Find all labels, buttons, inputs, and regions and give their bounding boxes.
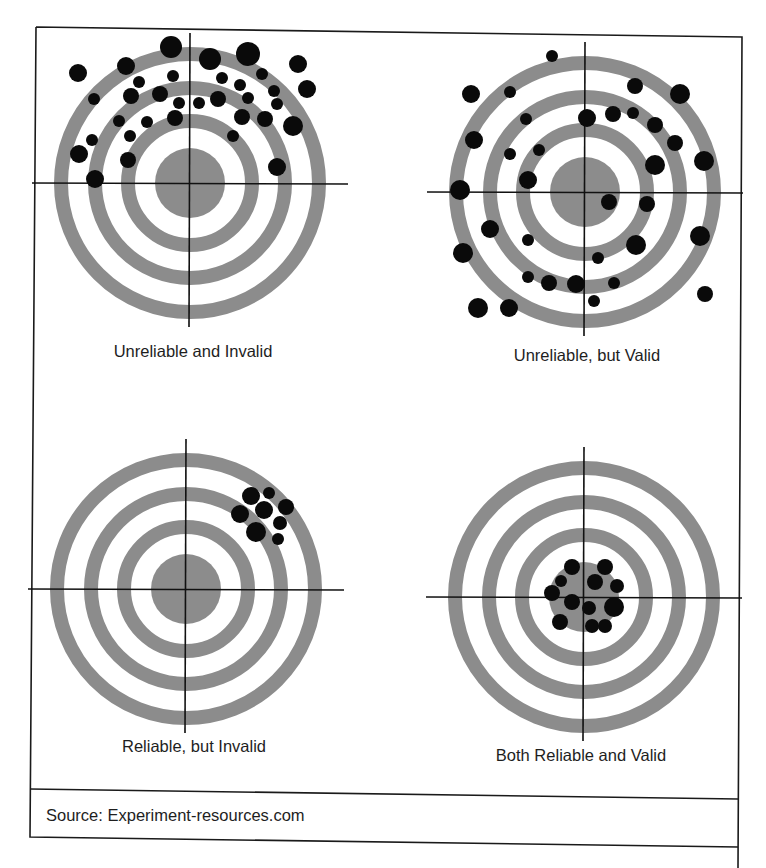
shot-dot bbox=[504, 86, 516, 98]
crosshair-vertical bbox=[189, 33, 190, 327]
shot-dot bbox=[520, 113, 532, 125]
shot-dot bbox=[522, 234, 534, 246]
shot-dot bbox=[587, 574, 603, 590]
shot-dot bbox=[597, 559, 613, 575]
shot-dot bbox=[697, 286, 713, 302]
shot-dot bbox=[242, 92, 254, 104]
shot-dot bbox=[567, 275, 585, 293]
shot-dot bbox=[552, 614, 568, 630]
target-reliable-valid bbox=[426, 447, 742, 741]
shot-dot bbox=[582, 601, 596, 615]
shot-dot bbox=[564, 559, 580, 575]
target-label-unreliable-invalid: Unreliable and Invalid bbox=[114, 342, 273, 360]
shot-dot bbox=[647, 117, 663, 133]
shot-dot bbox=[519, 171, 537, 189]
shot-dot bbox=[283, 116, 303, 136]
shot-dot bbox=[645, 155, 665, 175]
shot-dot bbox=[670, 84, 690, 104]
shot-dot bbox=[605, 106, 621, 122]
shot-dot bbox=[216, 72, 228, 84]
shot-dot bbox=[193, 97, 205, 109]
shot-dot bbox=[541, 275, 557, 291]
shot-dot bbox=[289, 55, 307, 73]
shot-dot bbox=[450, 180, 470, 200]
shot-dot bbox=[555, 575, 567, 587]
shot-dot bbox=[133, 76, 145, 88]
shot-dot bbox=[500, 299, 518, 317]
shot-dot bbox=[152, 86, 168, 102]
shot-dot bbox=[481, 220, 499, 238]
shot-dot bbox=[639, 196, 655, 212]
targets-layer bbox=[28, 33, 743, 741]
shot-dot bbox=[227, 130, 239, 142]
shot-dot bbox=[69, 64, 87, 82]
shot-dot bbox=[123, 88, 139, 104]
shot-dot bbox=[588, 295, 600, 307]
shot-dot bbox=[608, 277, 620, 289]
shot-dot bbox=[167, 110, 183, 126]
shot-dot bbox=[86, 134, 98, 146]
shot-dot bbox=[86, 170, 104, 188]
shot-dot bbox=[585, 619, 599, 633]
shot-dot bbox=[504, 148, 516, 160]
shot-dot bbox=[546, 50, 558, 62]
shot-dot bbox=[210, 91, 226, 107]
shot-dot bbox=[604, 597, 624, 617]
shot-dot bbox=[88, 93, 100, 105]
shot-dot bbox=[167, 70, 179, 82]
shot-dot bbox=[592, 252, 604, 264]
shot-dot bbox=[462, 85, 480, 103]
shot-dot bbox=[117, 57, 135, 75]
shot-dot bbox=[256, 68, 268, 80]
shot-dot bbox=[667, 135, 683, 151]
crosshair-vertical bbox=[583, 447, 584, 741]
shot-dot bbox=[199, 48, 221, 70]
shot-dot bbox=[273, 516, 287, 530]
shot-dot bbox=[242, 487, 260, 505]
shot-dot bbox=[298, 80, 316, 98]
shot-dot bbox=[627, 78, 643, 94]
shot-dot bbox=[544, 585, 560, 601]
shot-dot bbox=[564, 594, 580, 610]
shot-dot bbox=[255, 501, 273, 519]
shot-dot bbox=[234, 109, 250, 125]
shot-dot bbox=[578, 109, 596, 127]
shot-dot bbox=[120, 152, 136, 168]
shot-dot bbox=[271, 98, 283, 110]
shot-dot bbox=[263, 487, 275, 499]
shot-dot bbox=[453, 243, 473, 263]
target-reliable-invalid bbox=[28, 439, 344, 733]
shot-dot bbox=[141, 116, 153, 128]
target-unreliable-valid bbox=[427, 42, 743, 336]
shot-dot bbox=[522, 271, 534, 283]
shot-dot bbox=[610, 579, 624, 593]
shot-dot bbox=[627, 107, 639, 119]
shot-dot bbox=[234, 79, 246, 91]
shot-dot bbox=[124, 130, 136, 142]
crosshair-vertical bbox=[185, 439, 186, 733]
reliability-validity-figure: Unreliable and Invalid Unreliable, but V… bbox=[0, 0, 766, 868]
shot-dot bbox=[468, 298, 488, 318]
shot-dot bbox=[113, 115, 125, 127]
shot-dot bbox=[257, 111, 273, 127]
target-label-reliable-valid: Both Reliable and Valid bbox=[496, 746, 666, 764]
shot-dot bbox=[601, 194, 617, 210]
shot-dot bbox=[694, 151, 714, 171]
shot-dot bbox=[598, 619, 612, 633]
shot-dot bbox=[465, 131, 483, 149]
target-label-unreliable-valid: Unreliable, but Valid bbox=[514, 346, 660, 364]
shot-dot bbox=[272, 533, 284, 545]
shot-dot bbox=[70, 145, 88, 163]
shot-dot bbox=[231, 505, 249, 523]
shot-dot bbox=[173, 97, 185, 109]
shot-dot bbox=[690, 226, 710, 246]
shot-dot bbox=[160, 36, 182, 58]
source-caption: Source: Experiment-resources.com bbox=[46, 806, 305, 824]
shot-dot bbox=[236, 42, 260, 66]
crosshair-vertical bbox=[584, 42, 585, 336]
shot-dot bbox=[626, 235, 646, 255]
target-label-reliable-invalid: Reliable, but Invalid bbox=[122, 737, 266, 755]
shot-dot bbox=[268, 85, 280, 97]
shot-dot bbox=[278, 499, 294, 515]
shot-dot bbox=[268, 158, 286, 176]
